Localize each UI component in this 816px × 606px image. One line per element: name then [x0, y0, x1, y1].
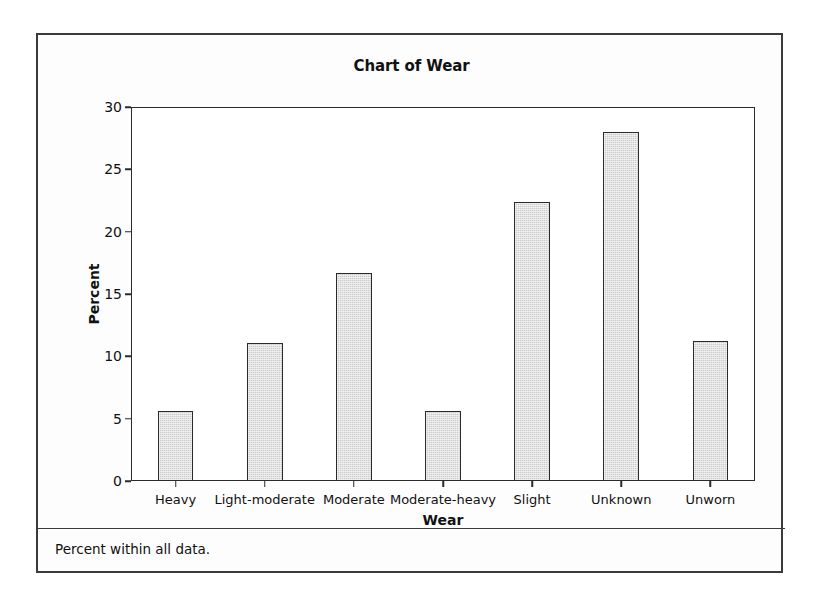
y-tick-mark — [125, 106, 131, 108]
x-tick-label: Moderate-heavy — [390, 492, 496, 507]
y-tick-mark — [125, 418, 131, 420]
y-tick-label: 10 — [104, 348, 122, 364]
bar — [336, 273, 372, 481]
bar — [514, 202, 550, 481]
y-tick-label: 25 — [104, 161, 122, 177]
bar — [693, 341, 729, 481]
y-tick-label: 15 — [104, 286, 122, 302]
x-tick-label: Light-moderate — [214, 492, 314, 507]
bar — [603, 132, 639, 481]
y-tick-mark — [125, 356, 131, 358]
y-tick-label: 0 — [113, 473, 122, 489]
x-tick-mark — [442, 481, 444, 487]
footnote-divider — [38, 528, 785, 530]
x-tick-mark — [710, 481, 712, 487]
x-tick-label: Moderate — [323, 492, 385, 507]
plot-region: Percent 051015202530 HeavyLight-moderate… — [131, 107, 755, 481]
bar — [247, 343, 283, 481]
footnote-text: Percent within all data. — [55, 541, 210, 557]
y-tick-label: 20 — [104, 224, 122, 240]
x-tick-label: Unknown — [591, 492, 651, 507]
x-tick-mark — [531, 481, 533, 487]
x-tick-mark — [264, 481, 266, 487]
y-axis-title: Percent — [86, 263, 102, 324]
y-tick-mark — [125, 293, 131, 295]
bar — [425, 411, 461, 481]
chart-title: Chart of Wear — [38, 57, 785, 75]
x-tick-label: Slight — [514, 492, 551, 507]
x-axis-title: Wear — [423, 512, 464, 528]
y-tick-mark — [125, 231, 131, 233]
x-tick-mark — [353, 481, 355, 487]
x-tick-label: Heavy — [155, 492, 196, 507]
y-tick-label: 5 — [113, 411, 122, 427]
y-tick-mark — [125, 169, 131, 171]
figure-frame: Chart of Wear Percent 051015202530 Heavy… — [36, 33, 783, 573]
bar — [158, 411, 194, 481]
x-tick-label: Unworn — [686, 492, 736, 507]
x-tick-mark — [175, 481, 177, 487]
x-tick-mark — [621, 481, 623, 487]
y-tick-label: 30 — [104, 99, 122, 115]
chart-page: Chart of Wear Percent 051015202530 Heavy… — [0, 0, 816, 606]
y-tick-mark — [125, 480, 131, 482]
